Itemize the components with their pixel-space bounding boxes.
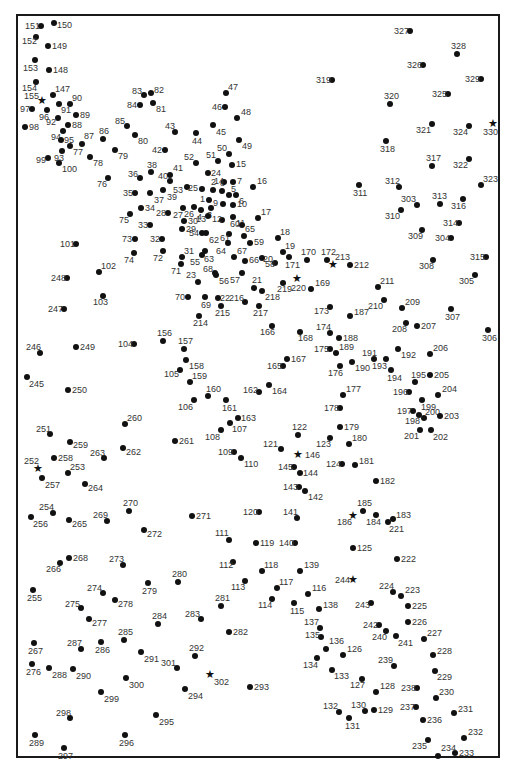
point-number-label: 235	[412, 742, 427, 751]
point-number-label: 178	[324, 404, 339, 413]
point-number-label: 169	[315, 279, 330, 288]
dot-marker-icon	[297, 568, 303, 574]
point-number-label: 115	[290, 607, 304, 616]
point-number-label: 271	[196, 512, 211, 521]
point-number-label: 50	[217, 144, 227, 153]
dot-marker-icon	[398, 593, 404, 599]
point-number-label: 252	[24, 457, 39, 466]
point-number-label: 287	[67, 639, 82, 648]
dot-marker-icon	[454, 51, 460, 57]
point-number-label: 125	[357, 544, 372, 553]
dot-marker-icon	[179, 226, 185, 232]
point-number-label: 82	[154, 86, 164, 95]
dot-marker-icon	[308, 286, 314, 292]
dot-marker-icon	[360, 508, 366, 514]
dot-marker-icon	[337, 424, 343, 430]
point-number-label: 37	[154, 196, 164, 205]
point-number-label: 137	[304, 618, 319, 627]
point-number-label: 116	[312, 584, 326, 593]
point-number-label: 245	[29, 380, 44, 389]
point-number-label: 86	[99, 127, 109, 136]
point-number-label: 184	[366, 518, 381, 527]
star-marker-icon: ★	[293, 449, 303, 460]
point-number-label: 174	[316, 323, 331, 332]
point-number-label: 251	[36, 425, 51, 434]
point-number-label: 277	[92, 619, 107, 628]
dot-marker-icon	[234, 115, 240, 121]
point-number-label: 209	[405, 298, 420, 307]
point-number-label: 325	[432, 90, 447, 99]
point-number-label: 10	[237, 200, 247, 209]
dot-marker-icon	[437, 201, 443, 207]
point-number-label: 185	[357, 499, 372, 508]
point-number-label: 111	[215, 529, 229, 538]
point-number-label: 249	[80, 343, 95, 352]
point-number-label: 67	[237, 247, 247, 256]
point-number-label: 70	[175, 293, 185, 302]
point-number-label: 237	[400, 703, 415, 712]
point-number-label: 323	[483, 175, 498, 184]
dot-marker-icon	[405, 619, 411, 625]
point-number-label: 63	[204, 255, 214, 264]
point-number-label: 161	[222, 404, 237, 413]
point-number-label: 219	[277, 285, 292, 294]
dot-marker-icon	[219, 188, 225, 194]
point-number-label: 324	[453, 128, 468, 137]
point-number-label: 14	[214, 177, 224, 186]
point-number-label: 85	[115, 117, 125, 126]
point-number-label: 151	[25, 22, 40, 31]
point-number-label: 48	[241, 108, 251, 117]
dot-marker-icon	[373, 689, 379, 695]
point-number-label: 140	[279, 539, 294, 548]
dot-marker-icon	[347, 313, 353, 319]
point-number-label: 227	[427, 629, 442, 638]
point-number-label: 170	[301, 248, 316, 257]
point-number-label: 136	[329, 637, 344, 646]
point-number-label: 275	[65, 600, 80, 609]
point-number-label: 95	[64, 136, 74, 145]
dot-marker-icon	[184, 184, 190, 190]
dot-marker-icon	[387, 101, 393, 107]
point-number-label: 143	[283, 483, 298, 492]
point-number-label: 315	[470, 253, 485, 262]
point-number-label: 127	[350, 681, 365, 690]
point-number-label: 201	[404, 432, 419, 441]
dot-marker-icon	[242, 258, 248, 264]
point-number-label: 223	[405, 586, 420, 595]
point-number-label: 208	[392, 325, 407, 334]
dot-marker-icon	[160, 338, 166, 344]
point-number-label: 90	[72, 94, 82, 103]
point-number-label: 100	[62, 165, 77, 174]
point-number-label: 238	[401, 684, 416, 693]
dot-marker-icon	[230, 179, 236, 185]
point-number-label: 53	[173, 186, 183, 195]
point-number-label: 36	[128, 170, 138, 179]
point-number-label: 145	[278, 463, 293, 472]
point-number-label: 191	[362, 349, 377, 358]
point-number-label: 183	[396, 511, 411, 520]
point-number-label: 181	[359, 457, 374, 466]
point-number-label: 179	[344, 423, 359, 432]
point-number-label: 326	[407, 61, 422, 70]
point-number-label: 318	[380, 145, 395, 154]
point-number-label: 246	[26, 343, 41, 352]
point-number-label: 162	[243, 386, 258, 395]
dot-marker-icon	[181, 346, 187, 352]
point-number-label: 1	[200, 195, 205, 204]
point-number-label: 88	[72, 121, 82, 130]
dot-marker-icon	[435, 753, 441, 759]
dot-marker-icon	[295, 432, 301, 438]
point-number-label: 187	[354, 308, 369, 317]
dot-marker-icon	[138, 205, 144, 211]
point-number-label: 43	[165, 122, 175, 131]
point-number-label: 306	[482, 334, 497, 343]
point-number-label: 73	[122, 235, 132, 244]
dot-marker-icon	[45, 43, 51, 49]
point-number-label: 216	[229, 294, 244, 303]
point-number-label: 168	[298, 334, 313, 343]
point-number-label: 109	[218, 448, 233, 457]
point-number-label: 126	[347, 645, 362, 654]
point-number-label: 158	[189, 362, 204, 371]
dot-marker-icon	[226, 629, 232, 635]
dot-marker-icon	[51, 455, 57, 461]
